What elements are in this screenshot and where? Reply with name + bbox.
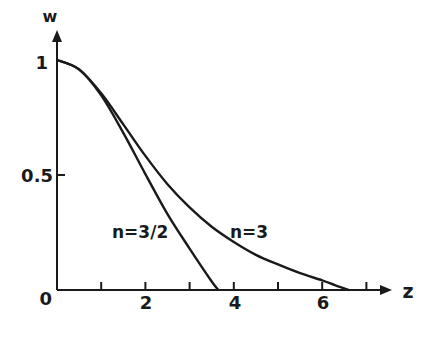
series-label-n-3: n=3 [230,222,268,242]
series-label-n-3-2: n=3/2 [112,222,168,242]
x-tick-label-4: 4 [229,292,242,313]
axes [57,42,380,290]
origin-label: 0 [39,288,52,309]
chart-canvas: w z 1 0.5 0 2 4 6 n=3/2 n=3 [0,0,432,340]
x-tick-label-6: 6 [317,292,330,313]
y-axis-arrow-icon [52,30,62,42]
y-tick-label-1: 1 [35,52,48,73]
x-axis-arrow-icon [380,285,392,295]
series-n-3-2-line [57,60,219,290]
y-tick-label-0.5: 0.5 [21,165,53,186]
series-n-3-line [57,60,349,290]
x-axis-label: z [402,280,413,302]
x-tick-label-2: 2 [140,292,153,313]
y-axis-label: w [43,7,58,26]
